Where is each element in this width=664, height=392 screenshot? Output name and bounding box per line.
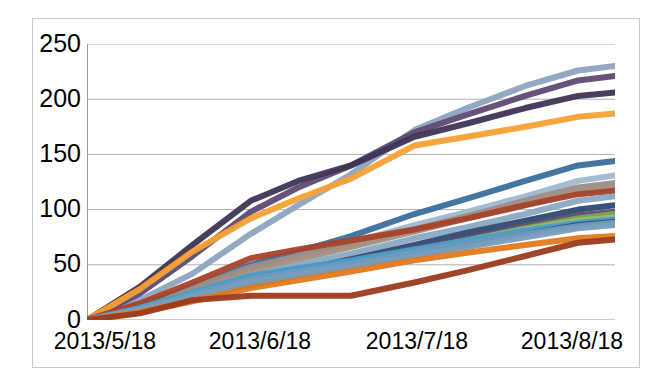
y-tick-100: 100 (39, 196, 81, 221)
series-lines (87, 66, 615, 320)
x-tick-2013-8-18: 2013/8/18 (502, 330, 642, 353)
x-tick-2013-6-18: 2013/6/18 (190, 330, 330, 353)
plot-svg (87, 44, 615, 320)
y-tick-150: 150 (39, 141, 81, 166)
chart-figure: 250 200 150 100 50 0 2013/5/18 2013/6/18… (0, 0, 664, 392)
plot-area (87, 44, 615, 320)
y-tick-250: 250 (39, 31, 81, 56)
x-tick-2013-7-18: 2013/7/18 (347, 330, 487, 353)
y-tick-200: 200 (39, 86, 81, 111)
y-tick-50: 50 (53, 251, 81, 276)
x-tick-2013-5-18: 2013/5/18 (35, 330, 175, 353)
y-axis-tick-marks (87, 44, 88, 320)
